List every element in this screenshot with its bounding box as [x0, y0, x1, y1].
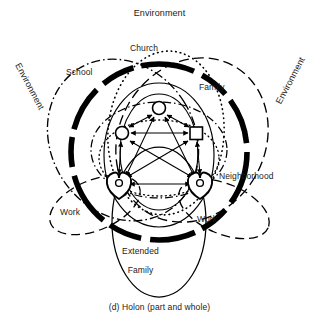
edge-n1-n3	[167, 115, 189, 127]
member-node-child-left	[116, 127, 129, 140]
environment-label-top: Environment	[0, 8, 319, 18]
member-node-child-top	[153, 102, 166, 115]
member-relationship-arrows	[119, 115, 200, 184]
edge-n1-n2	[129, 115, 152, 127]
church-label: Church	[130, 44, 158, 54]
family-label: Family	[199, 83, 225, 93]
edge-n2-n5	[130, 141, 192, 177]
work-label-left: Work	[60, 208, 80, 218]
member-node-child-right	[190, 127, 203, 140]
extended-family-label-line1: Extended	[122, 246, 159, 256]
extended-family-label-line2: Family	[128, 265, 154, 275]
figure-caption: (d) Holon (part and whole)	[0, 303, 319, 313]
neighborhood-label: Neighborhood	[219, 172, 274, 182]
school-label: School	[66, 68, 93, 78]
extended-family-label: Extended Family	[108, 237, 168, 275]
work-label-right: Work	[197, 215, 217, 225]
edge-n3-n4	[127, 141, 188, 177]
